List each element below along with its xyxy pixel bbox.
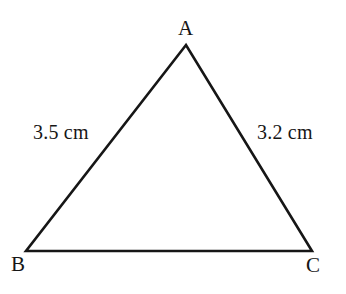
- side-length-label-ab: 3.5 cm: [33, 122, 89, 142]
- vertex-label-c: C: [306, 255, 320, 276]
- vertex-label-b: B: [11, 254, 25, 275]
- geometry-figure: A B C 3.5 cm 3.2 cm: [0, 0, 346, 294]
- side-length-label-ac: 3.2 cm: [257, 122, 313, 142]
- triangle-outline: [26, 45, 312, 251]
- vertex-label-a: A: [178, 18, 193, 39]
- triangle-shape: [0, 0, 346, 294]
